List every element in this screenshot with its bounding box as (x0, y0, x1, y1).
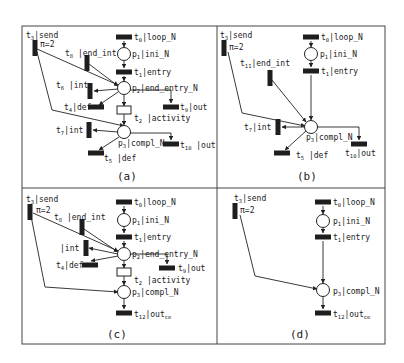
arc (31, 216, 118, 292)
transition-t9 (163, 105, 179, 110)
panel-caption-c: (c) (107, 328, 127, 341)
transition-label-t7: t7|int (244, 123, 272, 133)
transition-label-t4: t4|def (56, 261, 84, 271)
transition-t12 (116, 311, 132, 316)
place-label-p3: p3|compl_N (333, 287, 380, 297)
place-label-p1: p1|ini_N (132, 216, 169, 226)
transition-t1 (116, 70, 132, 75)
arc (84, 229, 118, 252)
figure-canvas: p1|ini_Np2|end_entry_Np3|compl_Nt0|loop_… (0, 0, 404, 363)
transition-label-t1: t1|entry (333, 233, 370, 243)
transition-t9 (159, 266, 175, 271)
transition-label-t3: t3|send (220, 31, 252, 41)
transition-label-t4: t4|def (64, 103, 92, 113)
place-p2 (118, 82, 131, 95)
transition-t0 (303, 35, 319, 40)
transition-label-t2: t2 |activity (134, 114, 190, 124)
arc (240, 215, 317, 289)
place-p2 (118, 248, 131, 261)
transition-t12 (315, 311, 331, 316)
transition-t0 (315, 200, 331, 205)
place-p3 (317, 284, 330, 297)
transition-t_int (84, 240, 89, 256)
transition-t0 (116, 200, 132, 205)
transition-label-t5: t5 |def (104, 154, 136, 164)
transition-t6 (88, 83, 93, 99)
transition-t3 (222, 40, 227, 56)
transition-label-t5: t5 |def (296, 151, 328, 161)
token-count-note: π=2 (240, 206, 255, 215)
panel-c: p1|ini_Np2|end_entry_Np3|compl_Nt0|loop_… (26, 195, 206, 341)
transition-t2 (117, 106, 131, 114)
transition-label-t9: t9|out (180, 103, 208, 113)
arc (89, 64, 118, 86)
panel-caption-d: (d) (290, 328, 310, 341)
transition-label-t3: t3|send (26, 195, 58, 205)
place-p3 (118, 286, 131, 299)
place-p3 (305, 121, 318, 134)
transition-t5 (88, 151, 104, 156)
panel-caption-a: (a) (117, 170, 137, 183)
transition-t3 (233, 203, 238, 219)
transition-label-t0: t0|loop_N (321, 33, 363, 43)
transition-label-t9: t9|out (178, 264, 206, 274)
place-p1 (118, 214, 131, 227)
place-label-p1: p1|ini_N (320, 50, 357, 60)
token-count-note: π=2 (40, 40, 55, 49)
place-p1 (118, 48, 131, 61)
panel-d: p1|ini_Np3|compl_Nt0|loop_Nt1|entryt3|se… (233, 194, 380, 341)
place-label-p3: p3|compl_N (118, 139, 165, 149)
transition-label-t11: t11|end_int (240, 59, 290, 69)
transition-t3 (28, 204, 33, 220)
arc (91, 256, 118, 261)
transition-t10 (163, 142, 179, 147)
transition-label-t1: t1|entry (134, 233, 171, 243)
panels: p1|ini_Np2|end_entry_Np3|compl_Nt0|loop_… (26, 31, 380, 341)
transition-label-t6: t6 |int (56, 81, 88, 91)
arc (285, 131, 306, 150)
transition-label-t0: t0|loop_N (333, 198, 375, 208)
panel-caption-b: (b) (297, 170, 317, 183)
transition-label-t10: t10|out (345, 149, 376, 159)
transition-label-t2: t2 |activity (134, 276, 190, 286)
arc (99, 137, 119, 150)
transition-label-t1: t1|entry (321, 67, 358, 77)
transition-label-t0: t0|loop_N (134, 198, 176, 208)
transition-label-t10: t10 |out (180, 141, 216, 151)
token-count-note: π=2 (229, 43, 244, 52)
transition-t1 (315, 235, 331, 240)
transition-label-t_int: |int (60, 244, 79, 253)
transition-t7 (87, 122, 92, 138)
transition-label-t8: t8 |end_int (65, 49, 117, 59)
transition-t0 (116, 35, 132, 40)
petri-net-figure: p1|ini_Np2|end_entry_Np3|compl_Nt0|loop_… (0, 0, 404, 363)
transition-label-t8: t8 |end_int (54, 213, 106, 223)
transition-label-t7: t7|int (56, 126, 84, 136)
transition-t7 (276, 119, 281, 135)
place-label-p2: p2|end_entry_N (132, 84, 198, 94)
token-count-note: π=2 (36, 206, 51, 215)
transition-label-t12: t12|outce (333, 310, 370, 320)
panel-b: p1|ini_Np3|compl_Nt0|loop_Nt1|entryt3|se… (220, 31, 376, 183)
transition-t2 (117, 268, 131, 276)
arc (93, 130, 118, 132)
transition-t5 (274, 151, 290, 156)
transition-label-t12: t12|outce (134, 310, 171, 320)
transition-t1 (303, 69, 319, 74)
transition-t11 (268, 70, 273, 86)
place-p1 (317, 215, 330, 228)
transition-label-t0: t0|loop_N (134, 33, 176, 43)
arc (272, 80, 306, 122)
transition-t4 (82, 263, 98, 268)
place-p3 (118, 126, 131, 139)
transition-t3 (33, 40, 38, 56)
transition-t10 (351, 142, 367, 147)
place-label-p1: p1|ini_N (333, 217, 370, 227)
transition-label-t3: t3|send (234, 194, 266, 204)
place-label-p2: p2|end_entry_N (132, 250, 198, 260)
place-label-p3: p3|compl_N (132, 288, 179, 298)
arc (94, 89, 118, 91)
place-label-p3: p3|compl_N (306, 133, 353, 143)
arc (99, 92, 118, 105)
transition-label-t1: t1|entry (134, 68, 171, 78)
